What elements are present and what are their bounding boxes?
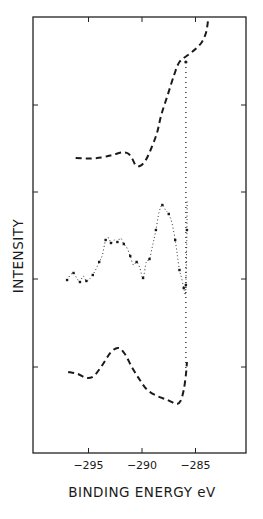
data-point-marker xyxy=(104,239,106,241)
data-point-marker xyxy=(168,213,170,215)
data-point-marker xyxy=(123,243,125,245)
data-point-marker xyxy=(129,255,131,257)
x-tick-label: −290 xyxy=(127,459,157,472)
y-axis-ticks xyxy=(33,105,246,367)
data-point-marker xyxy=(92,274,94,276)
data-point-marker xyxy=(186,229,188,231)
data-point-marker xyxy=(72,272,74,274)
plot-frame xyxy=(33,17,246,453)
y-axis-label: INTENSITY xyxy=(10,218,26,293)
x-axis-tick-labels: −295−290−285 xyxy=(73,459,210,472)
data-point-marker xyxy=(85,280,87,282)
data-point-marker xyxy=(161,204,163,206)
data-point-marker xyxy=(135,261,137,263)
top-dashed-curve xyxy=(76,18,209,166)
series-layer xyxy=(66,18,208,404)
data-point-marker xyxy=(155,229,157,231)
xps-spectrum-chart: −295−290−285 BINDING ENERGY eV INTENSITY xyxy=(0,0,263,519)
data-point-marker xyxy=(116,241,118,243)
data-point-marker xyxy=(174,239,176,241)
data-point-marker xyxy=(110,242,112,244)
x-axis-ticks xyxy=(89,17,196,453)
data-point-marker xyxy=(142,277,144,279)
data-point-marker xyxy=(66,279,68,281)
bottom-dashed-curve xyxy=(68,348,187,404)
data-point-marker xyxy=(148,258,150,260)
x-axis-label: BINDING ENERGY eV xyxy=(68,484,216,500)
data-point-marker xyxy=(183,287,185,289)
data-point-marker xyxy=(178,269,180,271)
data-point-marker xyxy=(185,284,187,286)
data-point-marker xyxy=(98,261,100,263)
x-tick-label: −295 xyxy=(73,459,103,472)
data-point-marker xyxy=(79,281,81,283)
x-tick-label: −285 xyxy=(180,459,210,472)
